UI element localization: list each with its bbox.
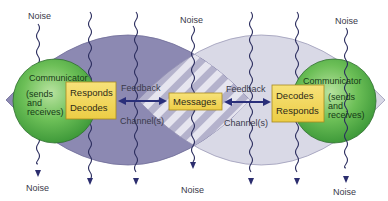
right-communicator-title: Communicator	[303, 76, 362, 86]
noise-label-bottom-left: Noise	[26, 183, 49, 193]
communication-diagram: Communicator (sends and receives) Commun…	[0, 0, 388, 201]
right-box-line-2: Responds	[276, 105, 319, 116]
arrowhead-icon	[294, 178, 300, 185]
messages-label: Messages	[173, 96, 217, 107]
noise-arrowheads	[35, 162, 349, 185]
left-feedback-label: Feedback	[121, 83, 161, 93]
noise-label-bottom-right: Noise	[333, 187, 356, 197]
right-feedback-label: Feedback	[226, 84, 266, 94]
arrowhead-icon	[343, 176, 349, 183]
right-box-line-1: Decodes	[276, 90, 314, 101]
noise-label-top-left: Noise	[28, 11, 51, 21]
noise-label-bottom-center: Noise	[181, 185, 204, 195]
left-box-line-2: Decodes	[70, 102, 108, 113]
left-channel-label: Channel(s)	[120, 116, 164, 126]
noise-label-top-right: Noise	[335, 16, 358, 26]
left-communicator-sub-3: receives)	[27, 107, 64, 117]
left-communicator-title: Communicator	[29, 73, 88, 83]
right-channel-label: Channel(s)	[224, 118, 268, 128]
arrowhead-icon	[133, 178, 139, 185]
right-communicator-sub-3: receives)	[328, 110, 365, 120]
arrowhead-icon	[190, 162, 196, 169]
arrowhead-icon	[248, 178, 254, 185]
noise-label-top-center: Noise	[180, 15, 203, 25]
arrowhead-icon	[35, 170, 41, 177]
left-box-line-1: Responds	[70, 87, 113, 98]
arrowhead-icon	[87, 178, 93, 185]
